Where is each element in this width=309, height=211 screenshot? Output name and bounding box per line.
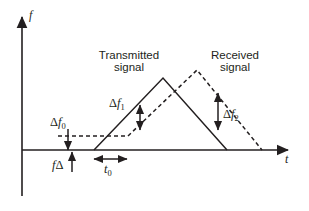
delta-f0-subscript: 0: [62, 121, 66, 131]
delta-f1-delta-symbol: Δ: [109, 96, 117, 110]
diagram-canvas: [0, 0, 309, 211]
received-signal-curve: [128, 70, 262, 150]
t0-label: t0: [104, 163, 112, 176]
delta-f0-delta-symbol: Δ: [50, 115, 58, 129]
frequency-axis-label: f: [29, 9, 32, 22]
received-signal-label: Received signal: [206, 49, 264, 73]
delta-f2-delta-symbol: Δ: [223, 107, 231, 121]
delta-f0-f-symbol: f: [58, 115, 61, 129]
delta-f2-subscript: 2: [235, 113, 239, 123]
transmitted-signal-label: Transmitted signal: [93, 49, 165, 73]
delta-f1-subscript: 1: [121, 102, 125, 112]
received-signal-label-line2: signal: [206, 61, 264, 73]
transmitted-signal-curve: [94, 78, 227, 150]
f-delta-label: fΔ: [52, 159, 64, 172]
figure-root: f t Transmitted signal Received signal Δ…: [0, 0, 309, 211]
delta-f0-label: Δf0: [50, 116, 66, 129]
f-delta-delta-symbol: Δ: [55, 158, 63, 172]
delta-f2-f-symbol: f: [231, 107, 234, 121]
delta-f1-label: Δf1: [109, 97, 125, 110]
delta-f2-label: Δf2: [223, 108, 239, 121]
time-axis-label: t: [285, 153, 288, 166]
transmitted-signal-label-line1: Transmitted: [93, 49, 165, 61]
transmitted-signal-label-line2: signal: [93, 61, 165, 73]
received-signal-label-line1: Received: [206, 49, 264, 61]
delta-f1-f-symbol: f: [117, 96, 120, 110]
t0-subscript: 0: [107, 168, 111, 178]
